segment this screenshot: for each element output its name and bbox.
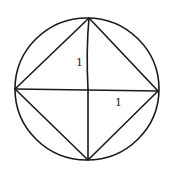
label-vertical-radius: 1 <box>76 56 83 69</box>
label-horizontal-radius: 1 <box>115 96 122 109</box>
horizontal-diameter <box>15 89 158 91</box>
vertical-diameter <box>87 18 89 160</box>
circle-square-diagram: 1 1 <box>0 0 171 171</box>
